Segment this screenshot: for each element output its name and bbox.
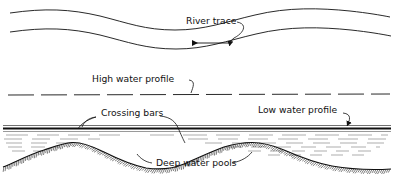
high-water-profile-line <box>8 94 390 95</box>
high-water-leader <box>189 80 193 93</box>
label-low-water-profile: Low water profile <box>258 104 337 115</box>
label-river-trace: River trace <box>186 15 237 26</box>
label-high-water-profile: High water profile <box>92 73 175 84</box>
river-diagram: River trace High water profile <box>0 0 394 179</box>
label-crossing-bars: Crossing bars <box>101 107 164 118</box>
high-water-profile-group: High water profile <box>8 73 390 95</box>
low-water-profile-leader <box>343 113 350 126</box>
river-plan-view: River trace <box>10 9 391 49</box>
river-bank-south <box>10 28 391 49</box>
river-profile-view: Crossing bars Low water profile Deep wat… <box>3 104 391 174</box>
diagram-canvas: River trace High water profile <box>0 0 394 179</box>
label-deep-water-pools: Deep water pools <box>156 157 237 168</box>
